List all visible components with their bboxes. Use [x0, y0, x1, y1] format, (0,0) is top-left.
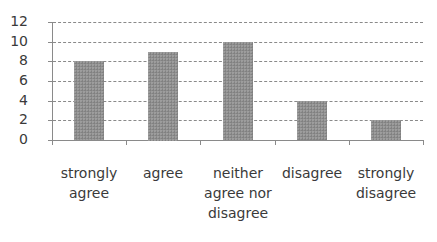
x-tick-mark: [423, 140, 424, 145]
x-tick-mark: [126, 140, 127, 145]
category-label: disagree: [275, 163, 349, 183]
bar-disagree: [297, 101, 327, 140]
bar-chart: 024681012 strongly agreeagreeneither agr…: [0, 0, 437, 242]
category-label: strongly agree: [52, 163, 126, 203]
category-label: agree: [126, 163, 200, 183]
y-tick-label: 12: [0, 14, 28, 28]
y-tick-label: 2: [0, 112, 28, 126]
x-tick-mark: [349, 140, 350, 145]
y-tick-label: 6: [0, 73, 28, 87]
y-tick-label: 4: [0, 93, 28, 107]
x-tick-mark: [52, 140, 53, 145]
bar-strongly-agree: [74, 61, 104, 140]
y-tick-label: 8: [0, 53, 28, 67]
bar-agree: [148, 52, 178, 141]
category-label: strongly disagree: [349, 163, 423, 203]
bar-neither-agree-nor-disagree: [223, 42, 253, 140]
y-tick-label: 10: [0, 34, 28, 48]
category-label: neither agree nor disagree: [201, 163, 275, 223]
y-tick-label: 0: [0, 132, 28, 146]
y-axis-line: [52, 22, 53, 144]
x-tick-mark: [200, 140, 201, 145]
x-axis-line: [48, 140, 423, 141]
x-tick-mark: [275, 140, 276, 145]
bar-strongly-disagree: [371, 120, 401, 140]
gridline: [48, 22, 423, 23]
